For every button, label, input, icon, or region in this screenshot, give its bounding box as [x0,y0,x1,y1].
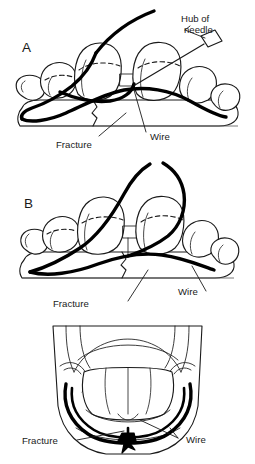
tooth-b-2 [43,217,80,253]
label-hub-of-needle-line2: needle [184,24,213,35]
tooth-a-2 [41,63,77,99]
label-fracture-a: Fracture [56,139,92,150]
label-fracture-c: Fracture [22,435,58,446]
label-wire-b: Wire [178,286,198,297]
tooth-a-6 [211,84,240,110]
figure-circumdental-wiring: A Hub of needle Fracture Wire [0,0,255,464]
panel-letter-b: B [24,196,33,211]
panel-a: A Hub of needle Fracture Wire [0,0,255,160]
panel-a-illustration: A Hub of needle Fracture Wire [0,0,255,160]
label-wire-a: Wire [150,131,170,142]
panel-c: Fracture Wire [0,310,255,464]
interdental-space-b [123,226,137,238]
label-wire-c: Wire [186,434,206,445]
label-hub-of-needle-line1: Hub of [181,13,210,24]
panel-c-illustration: Fracture Wire [0,310,255,464]
panel-letter-a: A [22,40,31,55]
panel-b-illustration: B Fracture Wire [0,160,255,310]
mandible-body-a [18,100,238,126]
panel-b: B Fracture Wire [0,160,255,310]
interdental-space-a [120,74,134,86]
label-fracture-b: Fracture [53,298,89,309]
